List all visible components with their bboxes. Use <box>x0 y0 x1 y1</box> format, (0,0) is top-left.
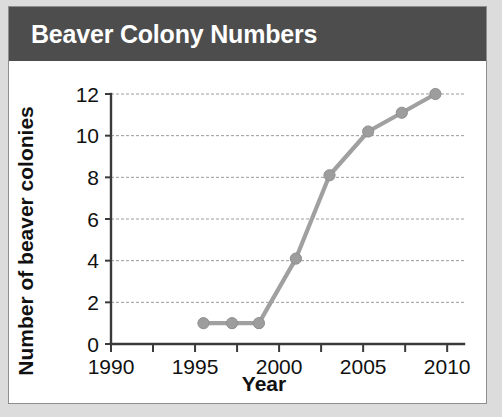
page-background: Beaver Colony Numbers 024681012 19901995… <box>0 0 502 417</box>
y-tick-label: 4 <box>87 249 99 272</box>
y-tick-label: 6 <box>87 208 99 231</box>
y-tick-label: 8 <box>87 166 99 189</box>
y-axis-tick-labels: 024681012 <box>76 83 100 356</box>
x-tick-label: 2005 <box>340 355 387 378</box>
y-axis-label: Number of beaver colonies <box>14 106 37 376</box>
axis-lines <box>105 94 464 352</box>
data-point <box>198 318 209 329</box>
series-line <box>203 94 435 323</box>
x-tick-label: 2010 <box>424 355 471 378</box>
page-title: Beaver Colony Numbers <box>9 20 317 49</box>
y-tick-label: 2 <box>87 291 99 314</box>
line-chart: 024681012 19901995200020052010 Number of… <box>9 61 486 403</box>
data-point <box>290 253 301 264</box>
y-tick-label: 12 <box>76 83 99 106</box>
x-tick-label: 1990 <box>88 355 135 378</box>
data-point <box>363 126 374 137</box>
data-series <box>198 88 441 328</box>
plot-area: 024681012 19901995200020052010 Number of… <box>9 61 486 403</box>
data-point <box>226 318 237 329</box>
data-point <box>430 88 441 99</box>
data-point <box>396 107 407 118</box>
data-point <box>253 318 264 329</box>
chart-card: Beaver Colony Numbers 024681012 19901995… <box>8 6 487 404</box>
x-axis-label: Year <box>242 372 286 395</box>
chart-title-bar: Beaver Colony Numbers <box>9 7 486 61</box>
data-point <box>324 170 335 181</box>
y-tick-label: 10 <box>76 124 99 147</box>
y-tick-label: 0 <box>87 333 99 356</box>
x-tick-label: 1995 <box>172 355 219 378</box>
